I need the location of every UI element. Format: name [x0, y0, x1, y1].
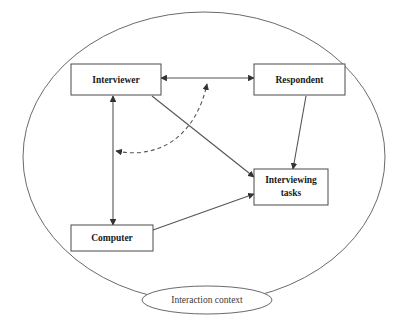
interaction-context-boundary-ellipse — [23, 12, 385, 302]
node-computer-label: Computer — [91, 233, 133, 243]
interaction-context-label: Interaction context — [171, 295, 243, 305]
interaction-context-ellipse: Interaction context — [142, 286, 272, 314]
node-respondent-label: Respondent — [275, 75, 324, 85]
diagram-canvas: Interviewer Respondent Interviewing task… — [0, 0, 408, 329]
edge-computer-interviewing-tasks — [153, 194, 254, 230]
node-interviewing-tasks[interactable]: Interviewing tasks — [254, 169, 328, 205]
node-interviewer-label: Interviewer — [92, 75, 140, 85]
node-respondent[interactable]: Respondent — [254, 64, 345, 95]
edge-respondent-interviewing-tasks — [293, 96, 306, 169]
node-interviewer[interactable]: Interviewer — [71, 64, 161, 95]
node-interviewing-tasks-label-line1: Interviewing — [265, 175, 317, 185]
node-interviewing-tasks-label-line2: tasks — [281, 188, 302, 198]
edge-interviewer-interviewing-tasks — [152, 96, 254, 177]
node-computer[interactable]: Computer — [71, 225, 153, 251]
diagram-root: Interviewer Respondent Interviewing task… — [0, 0, 408, 329]
